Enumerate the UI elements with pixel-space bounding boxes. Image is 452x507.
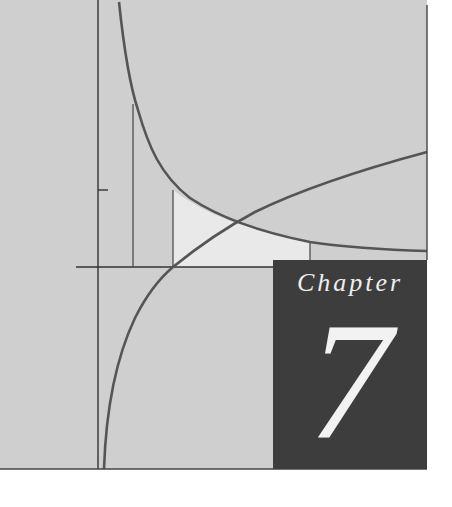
chapter-number: 7 xyxy=(273,296,427,464)
hyperbola-curve xyxy=(119,2,427,251)
chapter-box: Chapter 7 xyxy=(273,260,427,469)
